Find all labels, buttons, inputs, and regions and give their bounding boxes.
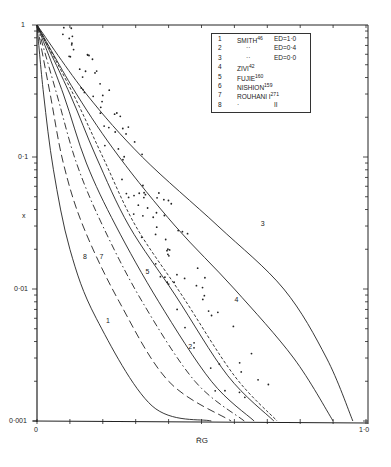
legend-item-5: 5FUJIE160 bbox=[212, 72, 310, 81]
legend-item-8: 8·II bbox=[212, 100, 310, 109]
legend-item-4: 4ZIVI42 bbox=[212, 62, 310, 71]
x-axis-label: R̄G bbox=[196, 436, 208, 445]
legend: 1SMITH46ED=1·02··ED=0·43··ED=0·04ZIVI425… bbox=[211, 33, 311, 113]
chart-plot: 1875243 bbox=[0, 0, 391, 467]
legend-item-1: 1SMITH46ED=1·0 bbox=[212, 34, 310, 43]
y-tick-0-1: 0·1 bbox=[18, 153, 28, 160]
curve-label-8: 8 bbox=[83, 253, 87, 260]
curve-label-4: 4 bbox=[234, 296, 238, 303]
curve-label-3: 3 bbox=[261, 220, 265, 227]
y-tick-0-01: 0·01 bbox=[14, 285, 28, 292]
legend-item-3: 3··ED=0·0 bbox=[212, 53, 310, 62]
series-1 bbox=[37, 25, 211, 421]
y-tick-1: 1 bbox=[21, 21, 25, 28]
curve-label-1: 1 bbox=[106, 317, 110, 324]
x-tick-0: 0 bbox=[34, 426, 38, 433]
curve-label-7: 7 bbox=[100, 253, 104, 260]
curve-label-5: 5 bbox=[146, 268, 150, 275]
legend-item-6: 6NISHION159 bbox=[212, 81, 310, 90]
legend-item-2: 2··ED=0·4 bbox=[212, 43, 310, 52]
x-tick-1: 1·0 bbox=[359, 426, 369, 433]
y-axis-label: x bbox=[22, 212, 26, 219]
y-tick-0-001: 0·001 bbox=[9, 417, 27, 424]
curve-label-2: 2 bbox=[188, 343, 192, 350]
legend-item-7: 7ROUHANI I271 bbox=[212, 90, 310, 99]
